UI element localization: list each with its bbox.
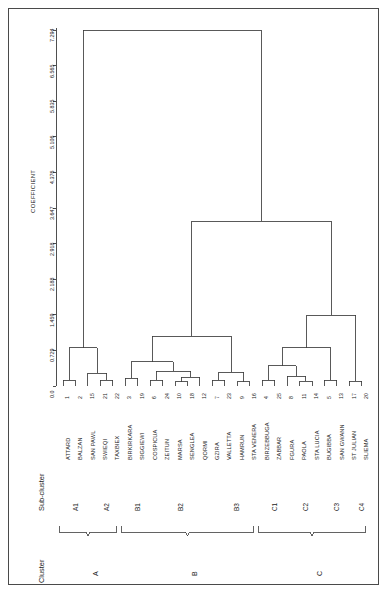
leaf-name: QORMI	[203, 440, 209, 460]
leaf-number: 8	[289, 396, 294, 399]
dendrogram-plot: 0.00.7291.4592.1882.9183.6474.3765.1065.…	[8, 8, 379, 585]
subcluster-label: C4	[359, 503, 365, 511]
leaf-number: 15	[90, 393, 95, 399]
leaf-name: MARSA	[178, 439, 184, 460]
leaf-number: 7	[215, 396, 220, 399]
leaf-name: PAOLA	[302, 441, 308, 460]
leaf-number: 12	[202, 393, 207, 399]
leaf-number: 25	[277, 393, 282, 399]
leaf-number: 2	[78, 396, 83, 399]
leaf-number: 18	[190, 393, 195, 399]
leaf-number: 20	[364, 393, 369, 399]
subcluster-label: C2	[303, 503, 309, 511]
subcluster-label: C1	[272, 503, 278, 511]
leaf-name: SLIEMA	[364, 439, 370, 460]
leaf-number: 3	[127, 396, 132, 399]
leaf-number: 16	[252, 393, 257, 399]
axis-title: COEFFICIENT	[30, 170, 36, 213]
leaf-number: 22	[115, 393, 120, 399]
axis-tick-label: 5.835	[50, 100, 55, 114]
leaf-number: 11	[302, 394, 307, 399]
leaf-number: 6	[152, 396, 157, 399]
leaf-name: BIRKIRKARA	[128, 425, 134, 460]
subcluster-label: B3	[234, 503, 240, 511]
leaf-name: ZEITUN	[165, 439, 171, 460]
leaf-number: 19	[140, 393, 145, 399]
leaf-number: 21	[103, 393, 108, 399]
header-cluster: Cluster	[38, 560, 45, 583]
cluster-label: C	[316, 571, 323, 576]
leaf-name: TAXBIEX	[115, 436, 121, 460]
leaf-name: SIGGIEWI	[140, 433, 146, 460]
leaf-name: ATTARD	[66, 438, 72, 460]
subcluster-label: A2	[104, 503, 110, 511]
leaf-number: 13	[339, 393, 344, 399]
leaf-name: VALLETTA	[227, 432, 233, 460]
subcluster-label: C3	[334, 503, 340, 511]
header-subcluster: Sub-cluster	[38, 474, 45, 511]
axis-tick-label: 0.0	[50, 391, 55, 399]
axis-tick-label: 0.729	[50, 349, 55, 363]
leaf-name: GZIRA	[215, 442, 221, 460]
leaf-name: BUGIBBA	[327, 434, 333, 460]
figure-root: 0.00.7291.4592.1882.9183.6474.3765.1065.…	[0, 0, 387, 593]
leaf-name: SAN GWANN	[340, 424, 346, 460]
leaf-number: 24	[165, 393, 170, 399]
axis-tick-label: 7.294	[50, 29, 55, 43]
subcluster-label: B1	[135, 503, 141, 511]
axis-tick-label: 5.106	[50, 135, 55, 149]
leaf-number: 1	[65, 396, 70, 399]
cluster-label: B	[191, 571, 198, 576]
leaf-name: SWIEQI	[103, 439, 109, 460]
leaf-name: BALZAN	[78, 437, 84, 460]
leaf-name: ST JULIAN	[352, 431, 358, 460]
leaf-number: 9	[240, 396, 245, 399]
leaf-name: SENGLEA	[190, 433, 196, 460]
leaf-name: STA LUCIA	[315, 430, 321, 460]
leaf-number: 10	[177, 393, 182, 399]
leaf-number: 17	[352, 393, 357, 399]
leaf-name: SAN PAWL	[91, 431, 97, 461]
leaf-number: 4	[264, 396, 269, 399]
cluster-label: A	[92, 571, 99, 576]
axis-tick-label: 3.647	[50, 207, 55, 221]
leaf-name: ZABBAR	[277, 437, 283, 460]
dendrogram-svg	[8, 8, 379, 585]
subcluster-label: B2	[178, 503, 184, 511]
axis-tick-label: 2.918	[50, 242, 55, 256]
leaf-name: HAMRUN	[240, 435, 246, 460]
axis-tick-label: 1.459	[50, 313, 55, 327]
leaf-number: 14	[314, 393, 319, 399]
leaf-name: FGURA	[290, 440, 296, 460]
leaf-name: BIRZEBBUGA	[265, 422, 271, 460]
leaf-name: STA VENERA	[252, 424, 258, 460]
subcluster-label: A1	[73, 503, 79, 511]
leaf-name: COSPICUA	[153, 430, 159, 460]
axis-tick-label: 2.188	[50, 278, 55, 292]
leaf-number: 5	[327, 396, 332, 399]
leaf-number: 23	[227, 393, 232, 399]
axis-tick-label: 6.565	[50, 64, 55, 78]
axis-tick-label: 4.376	[50, 171, 55, 185]
